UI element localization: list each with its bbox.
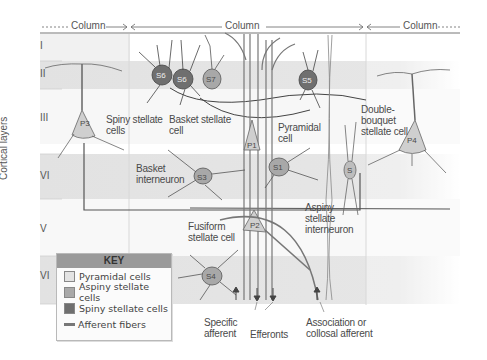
label-specific-afferent: Specific afferent (204, 317, 237, 339)
legend-item-afferent: Afferent fibers (57, 316, 171, 332)
label-efferents: Efferonts (250, 329, 288, 340)
layer-label-III: III (40, 112, 48, 123)
soma-S3: S3 (197, 172, 206, 183)
soma-S5: S5 (302, 75, 311, 86)
soma-S1: S1 (273, 162, 282, 173)
layer-label-II: II (40, 68, 46, 79)
label-spiny-stellate: Spiny stellate cells (106, 114, 163, 136)
layer-label-V: V (40, 223, 47, 234)
swatch-afferent-line (64, 323, 75, 326)
label-double-bouquet: Double- bouquet stellate cell (361, 104, 408, 137)
label-association-afferent: Association or collosal afferent (306, 317, 372, 339)
legend-item-spiny: Spiny stellate cells (57, 300, 171, 316)
swatch-aspiny (64, 287, 75, 298)
layer-label-IV: VI (40, 170, 49, 181)
axis-label: Cortical layers (0, 117, 9, 180)
label-fusiform: Fusiform stellate cell (188, 221, 235, 243)
label-basket-interneuron: Basket interneuron (136, 163, 184, 185)
soma-S7: S7 (206, 74, 215, 85)
legend-item-aspiny: Aspiny stellate cells (57, 284, 171, 300)
swatch-spiny (64, 303, 75, 314)
swatch-pyramidal (64, 271, 75, 282)
soma-P1: P1 (247, 140, 256, 151)
soma-S4: S4 (206, 271, 215, 282)
soma-P3: P3 (80, 118, 89, 129)
soma-S6a: S6 (156, 70, 165, 81)
layer-label-VI: VI (40, 270, 49, 281)
soma-P2: P2 (250, 220, 259, 231)
column-header-center: Column (224, 20, 260, 31)
soma-P4: P4 (407, 135, 416, 146)
soma-S2: S (347, 165, 352, 176)
label-basket-stellate: Basket stellate cell (169, 114, 231, 136)
label-aspiny-stellate: Aspiny stellate interneuron (305, 202, 353, 235)
label-pyramidal: Pyramidal cell (278, 122, 321, 144)
legend: KEY Pyramidal cells Aspiny stellate cell… (56, 253, 172, 341)
legend-title: KEY (57, 254, 171, 268)
soma-S6b: S6 (177, 74, 186, 85)
cortical-column-diagram: Column Column Column Cortical layers I I… (0, 0, 487, 360)
layer-label-I: I (40, 40, 43, 51)
column-header-left: Column (70, 20, 106, 31)
column-header-right: Column (402, 20, 438, 31)
